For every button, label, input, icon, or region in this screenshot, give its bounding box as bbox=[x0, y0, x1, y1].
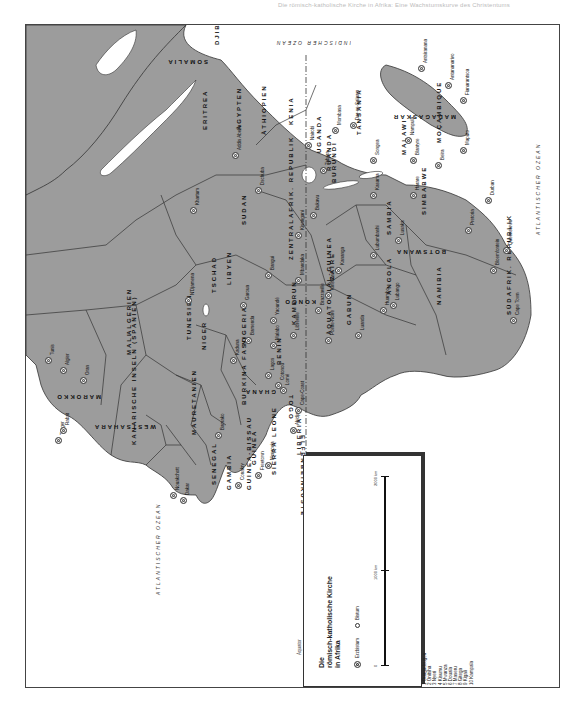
city-label: Addis Abeba bbox=[238, 125, 243, 150]
archdiocese-marker bbox=[370, 157, 377, 164]
archdiocese-marker bbox=[445, 82, 452, 89]
city-label: Garoua bbox=[246, 285, 251, 300]
country-label: GAMBIA bbox=[226, 454, 232, 490]
archdiocese-marker bbox=[380, 307, 387, 314]
country-label: TSCHAD bbox=[211, 256, 217, 293]
archdiocese-marker bbox=[295, 407, 302, 414]
scale-bar: 0 1000 km 2000 km bbox=[384, 476, 386, 666]
country-label: TOGO bbox=[288, 395, 294, 421]
city-label: Kinshasa bbox=[331, 271, 336, 290]
city-label: Mombasa bbox=[338, 105, 343, 125]
country-label: BURUNDI bbox=[331, 141, 337, 183]
scale-label-max: 2000 km bbox=[373, 471, 378, 486]
archdiocese-marker bbox=[80, 377, 87, 384]
legend-bistum: Bistum bbox=[355, 606, 360, 628]
city-label: Mbandaka bbox=[301, 254, 306, 275]
city-label: Bamako bbox=[221, 413, 226, 430]
city-label: Tabora bbox=[326, 151, 331, 165]
city-label: Kaduna bbox=[236, 339, 241, 355]
city-label: Lagos bbox=[271, 358, 276, 370]
scale-label-mid: 1000 km bbox=[373, 565, 378, 580]
scale-tick-2000 bbox=[381, 476, 389, 477]
archdiocese-marker bbox=[395, 237, 402, 244]
archdiocese-marker bbox=[265, 272, 272, 279]
city-label: Songea bbox=[376, 139, 381, 155]
city-label: Kisangani bbox=[301, 210, 306, 230]
city-label: Algier bbox=[66, 353, 71, 365]
city-label: Antananarivo bbox=[451, 53, 456, 80]
archdiocese-marker bbox=[390, 302, 397, 309]
city-label: Libreville bbox=[296, 312, 301, 330]
archdiocese-marker bbox=[305, 142, 312, 149]
country-label: MAURETANIEN bbox=[191, 369, 197, 435]
city-label: Rabat bbox=[66, 413, 71, 425]
country-label: SAMBIA bbox=[386, 199, 392, 235]
country-label: BOTSWANA bbox=[395, 249, 446, 255]
legend-keys: Erzbistum Bistum bbox=[354, 606, 361, 668]
archdiocese-marker bbox=[350, 122, 357, 129]
archdiocese-symbol-icon bbox=[354, 661, 361, 668]
ocean-label-atlantic-north: ATLANTISCHER OZEAN bbox=[536, 143, 541, 235]
scale-tick-1000 bbox=[381, 570, 389, 571]
city-label: Queenstown bbox=[509, 220, 514, 245]
archdiocese-marker bbox=[170, 492, 177, 499]
country-label: MOÇAMBIQUE bbox=[436, 81, 442, 143]
archdiocese-marker bbox=[320, 167, 327, 174]
city-label: Pretoria bbox=[471, 209, 476, 225]
city-label: Nairobi bbox=[311, 126, 316, 140]
archdiocese-marker bbox=[240, 302, 247, 309]
archdiocese-marker bbox=[490, 267, 497, 274]
archdiocese-marker bbox=[265, 462, 272, 469]
archdiocese-marker bbox=[295, 232, 302, 239]
city-label: Lubango bbox=[396, 282, 401, 300]
city-label: Kananga bbox=[341, 247, 346, 265]
archdiocese-marker bbox=[332, 127, 339, 134]
legend-erzbistum: Erzbistum bbox=[354, 638, 361, 668]
archdiocese-marker bbox=[370, 192, 377, 199]
ocean-label-atlantic-south: ATLANTISCHER OZEAN bbox=[156, 503, 161, 595]
country-label: LIBYEN bbox=[226, 251, 232, 285]
archdiocese-marker bbox=[510, 317, 517, 324]
scale-label-zero: 0 bbox=[373, 665, 378, 667]
city-label: Pointe-Noire bbox=[331, 310, 336, 335]
archdiocese-marker bbox=[290, 427, 297, 434]
archdiocese-marker bbox=[405, 137, 412, 144]
diocese-symbol-icon bbox=[355, 623, 360, 628]
archdiocese-marker bbox=[230, 357, 237, 364]
archdiocese-marker bbox=[315, 307, 322, 314]
country-label: UGANDA bbox=[316, 115, 322, 153]
city-label: Lusaka bbox=[401, 220, 406, 235]
legend-title: Die römisch-katholische Kirche in Afrika bbox=[318, 468, 342, 668]
city-label: Dar-es-Salaam bbox=[356, 90, 361, 120]
archdiocese-marker bbox=[235, 482, 242, 489]
archdiocese-marker bbox=[325, 292, 332, 299]
city-label: Conakry bbox=[241, 463, 246, 480]
archdiocese-marker bbox=[280, 387, 287, 394]
legend-box: Die römisch-katholische Kirche in Afrika… bbox=[303, 455, 422, 687]
archdiocese-marker bbox=[460, 147, 467, 154]
city-label: N'Djamena bbox=[191, 273, 196, 295]
archdiocese-marker bbox=[185, 297, 192, 304]
archdiocese-marker bbox=[60, 427, 67, 434]
country-label: KANARISCHE INSELN (SPANIEN) bbox=[131, 295, 137, 445]
country-label: SENEGAL bbox=[211, 442, 217, 485]
country-label: ÄGYPTEN bbox=[236, 87, 242, 130]
city-label: Cape Town bbox=[516, 293, 521, 315]
city-label: Dakar bbox=[186, 483, 191, 495]
archdiocese-marker bbox=[485, 197, 492, 204]
lake-victoria bbox=[302, 167, 316, 183]
archdiocese-marker bbox=[335, 267, 342, 274]
country-label: SIMBABWE bbox=[421, 166, 427, 215]
archdiocese-marker bbox=[290, 332, 297, 339]
scale-tick-0 bbox=[381, 665, 389, 666]
country-label: NIGER bbox=[201, 321, 207, 350]
country-label: KENIA bbox=[288, 96, 294, 125]
country-label: SUDAN bbox=[241, 194, 247, 225]
archdiocese-marker bbox=[465, 227, 472, 234]
city-label: Bloemfontein bbox=[496, 239, 501, 265]
country-label: GABUN bbox=[346, 293, 352, 325]
archdiocese-marker bbox=[180, 497, 187, 504]
city-label: Bukavu bbox=[316, 195, 321, 210]
city-label: Nouakchott bbox=[176, 467, 181, 490]
city-label: Oran bbox=[86, 365, 91, 375]
